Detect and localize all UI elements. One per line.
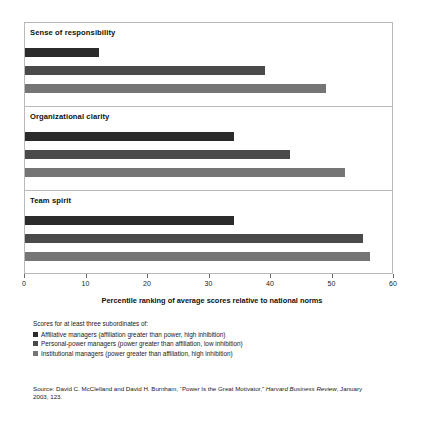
bar-row xyxy=(25,148,392,166)
legend-swatch-icon xyxy=(33,332,38,337)
axis-tick-label: 50 xyxy=(328,280,336,287)
legend-item: Affiliative managers (affiliation greate… xyxy=(33,331,393,338)
axis-tick-label: 40 xyxy=(266,280,274,287)
bar-row xyxy=(25,166,392,184)
axis-tick-label: 0 xyxy=(22,280,26,287)
bar-affiliative xyxy=(25,132,234,141)
axis-tick xyxy=(393,274,394,278)
legend-item: Institutional managers (power greater th… xyxy=(33,350,393,357)
axis-tick-label: 30 xyxy=(205,280,213,287)
axis-tick xyxy=(270,274,271,278)
legend-item-label: Personal-power managers (power greater t… xyxy=(41,340,243,347)
panel-title: Team spirit xyxy=(30,196,71,205)
bar-personal-power xyxy=(25,234,363,243)
axis-tick-label: 10 xyxy=(82,280,90,287)
x-axis-title: Percentile ranking of average scores rel… xyxy=(0,296,424,305)
bar-personal-power xyxy=(25,150,290,159)
bar-row xyxy=(25,214,392,232)
axis-tick-label: 20 xyxy=(143,280,151,287)
bar-affiliative xyxy=(25,48,99,57)
bar-institutional xyxy=(25,84,326,93)
source-note: Source: David C. McClelland and David H.… xyxy=(33,385,363,402)
bar-personal-power xyxy=(25,66,265,75)
bar-row xyxy=(25,46,392,64)
legend-item-label: Affiliative managers (affiliation greate… xyxy=(41,331,226,338)
x-axis: 0 10 20 30 40 50 60 xyxy=(24,274,393,296)
bar-institutional xyxy=(25,168,345,177)
legend-swatch-icon xyxy=(33,341,38,346)
bar-row xyxy=(25,64,392,82)
bar-affiliative xyxy=(25,216,234,225)
plot-area: Sense of responsibility Organizational c… xyxy=(24,22,393,274)
chart-panel: Organizational clarity xyxy=(25,107,392,191)
chart-legend: Scores for at least three subordinates o… xyxy=(33,320,393,359)
legend-item-label: Institutional managers (power greater th… xyxy=(41,350,233,357)
legend-heading: Scores for at least three subordinates o… xyxy=(33,320,393,327)
bar-row xyxy=(25,82,392,100)
axis-tick xyxy=(86,274,87,278)
chart-figure: Sense of responsibility Organizational c… xyxy=(0,0,424,427)
source-publication: Harvard Business Review xyxy=(266,385,337,392)
bar-row xyxy=(25,232,392,250)
bar-row xyxy=(25,130,392,148)
source-label: Source: xyxy=(33,385,54,392)
axis-tick-label: 60 xyxy=(389,280,397,287)
bar-institutional xyxy=(25,252,370,261)
chart-panel: Sense of responsibility xyxy=(25,23,392,107)
panel-title: Organizational clarity xyxy=(30,112,109,121)
panel-bars xyxy=(25,46,392,104)
bar-row xyxy=(25,250,392,268)
panel-title: Sense of responsibility xyxy=(30,28,115,37)
axis-tick xyxy=(209,274,210,278)
legend-swatch-icon xyxy=(33,351,38,356)
source-text-before: David C. McClelland and David H. Burnham… xyxy=(54,385,266,392)
axis-tick xyxy=(24,274,25,278)
axis-tick xyxy=(332,274,333,278)
panel-bars xyxy=(25,130,392,188)
chart-panel: Team spirit xyxy=(25,191,392,275)
axis-tick xyxy=(147,274,148,278)
panel-bars xyxy=(25,214,392,273)
legend-item: Personal-power managers (power greater t… xyxy=(33,340,393,347)
